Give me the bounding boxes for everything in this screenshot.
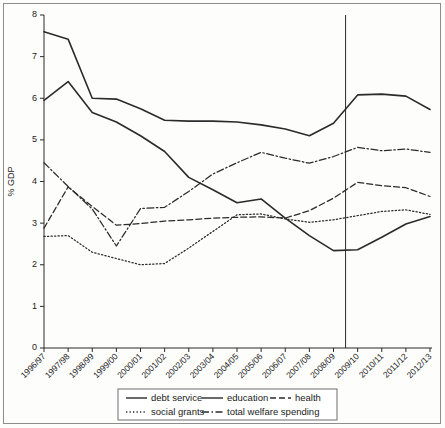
x-tick-label: 2000/01 — [115, 351, 144, 380]
x-tick-label: 2008/09 — [308, 351, 337, 380]
x-tick-label: 2011/12 — [381, 351, 410, 380]
legend-label-health: health — [295, 392, 321, 403]
y-tick-label: 1 — [32, 301, 37, 311]
series-line-social-grants — [44, 210, 430, 265]
legend-label-social-grants: social grants — [151, 406, 205, 417]
x-tick-label: 1996/97 — [19, 351, 48, 380]
y-tick-label: 5 — [32, 134, 37, 144]
y-tick-label: 2 — [32, 259, 37, 269]
y-tick-label: 8 — [32, 9, 37, 19]
x-tick-label: 2001/02 — [139, 351, 168, 380]
x-tick-label: 2005/06 — [236, 351, 265, 380]
y-axis-title: % GDP — [6, 166, 16, 196]
x-tick-label: 2006/07 — [260, 351, 289, 380]
legend-label-education: education — [227, 392, 268, 403]
x-tick-label: 2004/05 — [212, 351, 241, 380]
chart-legend: debt serviceeducationhealthsocial grants… — [118, 389, 337, 420]
x-tick-label: 1997/98 — [43, 351, 72, 380]
series-line-debt-service — [44, 32, 430, 136]
x-axis: 1996/971997/981998/991999/002000/012001/… — [19, 348, 434, 380]
x-tick-label: 2003/04 — [187, 351, 216, 380]
y-tick-label: 7 — [32, 51, 37, 61]
x-tick-label: 2009/10 — [332, 351, 361, 380]
x-tick-label: 2012/13 — [405, 351, 434, 380]
series-line-health — [44, 182, 430, 228]
legend-label-total-welfare-spending: total welfare spending — [227, 406, 319, 417]
y-tick-label: 6 — [32, 93, 37, 103]
legend-label-debt-service: debt service — [151, 392, 202, 403]
series-line-education — [44, 82, 430, 251]
series-line-total-welfare-spending — [44, 147, 430, 246]
y-axis-label-text: % GDP — [6, 166, 16, 196]
y-axis: 012345678 — [32, 9, 44, 352]
line-chart-canvas: 012345678 1996/971997/981998/991999/0020… — [0, 0, 445, 428]
x-tick-label: 2010/11 — [357, 351, 386, 380]
data-series-group — [44, 32, 430, 265]
chart-figure: 012345678 1996/971997/981998/991999/0020… — [0, 0, 445, 428]
x-tick-label: 1999/00 — [91, 351, 120, 380]
x-tick-label: 2002/03 — [163, 351, 192, 380]
y-tick-label: 3 — [32, 218, 37, 228]
y-tick-label: 4 — [32, 176, 37, 186]
x-tick-label: 2007/08 — [284, 351, 313, 380]
y-tick-label: 0 — [32, 342, 37, 352]
x-tick-label: 1998/99 — [67, 351, 96, 380]
